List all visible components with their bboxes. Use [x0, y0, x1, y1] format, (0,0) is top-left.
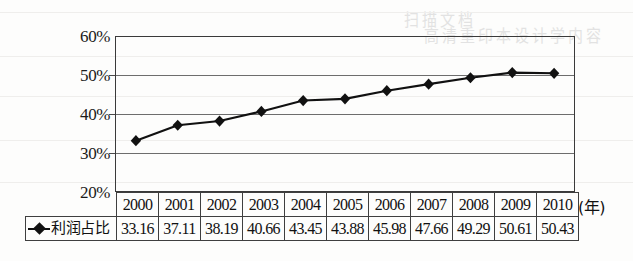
- y-axis-label-30: 30%: [44, 145, 110, 162]
- data-point-2005: [340, 93, 350, 104]
- table-value-2007: 47.66: [411, 217, 453, 241]
- y-axis-label-40: 40%: [44, 106, 110, 123]
- chart-figure: 扫描文档 高清重印本设计学内容 60% 50% 40% 30% 20% (年) …: [0, 0, 633, 261]
- table-header-2000: 2000: [117, 193, 159, 217]
- data-point-2002: [214, 115, 224, 126]
- y-axis-label-60: 60%: [44, 28, 110, 45]
- table-value-2005: 43.88: [327, 217, 369, 241]
- data-point-2001: [173, 120, 183, 131]
- table-value-2006: 45.98: [369, 217, 411, 241]
- table-value-2001: 37.11: [159, 217, 201, 241]
- table-header-2009: 2009: [495, 193, 537, 217]
- table-row-headers: 2000 2001 2002 2003 2004 2005 2006 2007 …: [26, 193, 579, 217]
- table-header-2010: 2010: [537, 193, 579, 217]
- diamond-marker-icon: [28, 222, 50, 236]
- table-value-2009: 50.61: [495, 217, 537, 241]
- table-header-2001: 2001: [159, 193, 201, 217]
- table-row-values: 利润占比 33.16 37.11 38.19 40.66 43.45 43.88…: [26, 217, 579, 241]
- table-value-2004: 43.45: [285, 217, 327, 241]
- table-value-2002: 38.19: [201, 217, 243, 241]
- table-value-2008: 49.29: [453, 217, 495, 241]
- series-line-profit-ratio: [115, 36, 575, 192]
- legend-label: 利润占比: [51, 221, 109, 236]
- table-value-2010: 50.43: [537, 217, 579, 241]
- legend-series-profit-ratio: 利润占比: [26, 217, 117, 241]
- data-point-2010: [549, 68, 559, 79]
- data-point-2007: [423, 79, 433, 90]
- data-point-2003: [256, 106, 266, 117]
- table-value-2000: 33.16: [117, 217, 159, 241]
- table-header-2005: 2005: [327, 193, 369, 217]
- table-header-2007: 2007: [411, 193, 453, 217]
- scan-ghost-text-top: 扫描文档: [404, 6, 476, 30]
- table-header-2003: 2003: [243, 193, 285, 217]
- table-value-2003: 40.66: [243, 217, 285, 241]
- data-point-2008: [465, 72, 475, 83]
- x-axis-unit-label: (年): [578, 194, 605, 218]
- data-point-2009: [507, 67, 517, 78]
- table-header-2002: 2002: [201, 193, 243, 217]
- data-table: 2000 2001 2002 2003 2004 2005 2006 2007 …: [25, 192, 579, 241]
- table-header-2004: 2004: [285, 193, 327, 217]
- series-markers: [131, 67, 560, 146]
- table-corner-empty: [26, 193, 117, 217]
- data-point-2006: [382, 85, 392, 96]
- table-header-2008: 2008: [453, 193, 495, 217]
- table-header-2006: 2006: [369, 193, 411, 217]
- series-polyline: [136, 73, 554, 141]
- data-point-2004: [298, 95, 308, 106]
- data-point-2000: [131, 135, 141, 146]
- y-axis-label-50: 50%: [44, 67, 110, 84]
